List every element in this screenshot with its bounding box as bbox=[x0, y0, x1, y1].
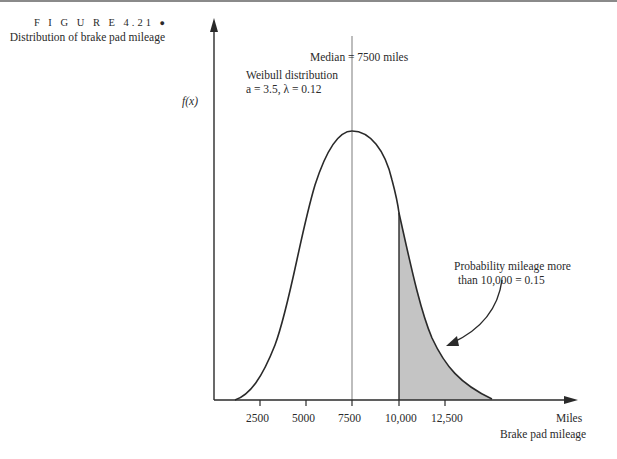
distribution-params: a = 3.5, λ = 0.12 bbox=[246, 82, 321, 96]
x-tick-12500: 12,500 bbox=[431, 411, 463, 425]
x-ticks bbox=[260, 400, 445, 406]
x-tick-5000: 5000 bbox=[292, 411, 315, 425]
median-label: Median = 7500 miles bbox=[310, 50, 408, 64]
shaded-tail-area bbox=[399, 213, 492, 400]
tail-probability-line1: Probability mileage more bbox=[454, 259, 571, 273]
distribution-name: Weibull distribution bbox=[246, 68, 338, 82]
x-tick-7500: 7500 bbox=[338, 411, 361, 425]
x-tick-10000: 10,000 bbox=[385, 411, 417, 425]
annotation-arrow bbox=[452, 280, 502, 343]
y-axis-arrow-icon bbox=[210, 18, 218, 32]
x-tick-2500: 2500 bbox=[246, 411, 269, 425]
y-axis-label: f(x) bbox=[182, 94, 198, 108]
tail-probability-line2: than 10,000 = 0.15 bbox=[458, 273, 545, 287]
x-axis-arrow-icon bbox=[564, 396, 578, 404]
annotation-arrowhead-icon bbox=[446, 336, 459, 346]
x-axis-unit: Miles bbox=[556, 411, 582, 425]
x-axis-label: Brake pad mileage bbox=[500, 427, 586, 441]
